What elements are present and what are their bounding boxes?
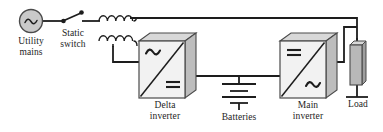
load-label: Load [339,99,377,110]
switch-icon[interactable] [61,10,84,23]
ups-circuit-diagram: Utility mains Static switch Delta invert… [0,0,383,132]
main-inverter-label-line2: inverter [277,111,339,122]
main-inverter-label-line1: Main [277,100,339,111]
delta-inverter-label-line2: inverter [134,111,196,122]
load-block-icon[interactable] [350,41,366,85]
ac-source-icon [20,10,43,33]
static-switch-label-line1: Static [46,28,100,39]
transformer-icon [99,16,137,47]
wire-transformer-to-delta-inverter [113,46,139,62]
batteries-label: Batteries [209,112,269,123]
battery-icon [222,84,256,110]
static-switch-label-line2: switch [46,39,100,50]
main-inverter-block[interactable] [280,33,337,98]
delta-inverter-label-line1: Delta [134,100,196,111]
delta-inverter-block[interactable] [139,33,196,98]
